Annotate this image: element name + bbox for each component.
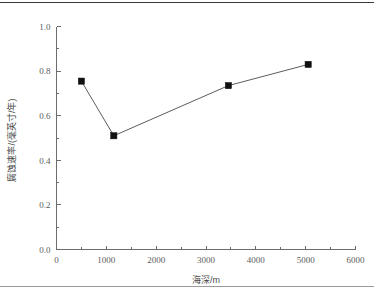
y-tick-label: 1.0 (39, 22, 51, 32)
x-tick-label: 2000 (147, 255, 166, 265)
x-axis-title: 海深/m (192, 274, 220, 285)
y-tick-label: 0.4 (39, 156, 51, 166)
series-line (81, 64, 308, 135)
tick-labels-group: 01000200030004000500060000.00.20.40.60.8… (39, 22, 365, 265)
data-series-group (78, 61, 311, 139)
y-tick-label: 0.8 (39, 66, 51, 76)
data-point-marker (78, 78, 84, 84)
axes-group (57, 27, 356, 250)
x-tick-label: 6000 (347, 255, 366, 265)
y-axis-title: 腐蚀速率/(毫英寸/年) (6, 99, 17, 182)
y-tick-label: 0.0 (39, 245, 51, 255)
x-tick-label: 0 (54, 255, 59, 265)
x-tick-label: 1000 (97, 255, 116, 265)
data-point-marker (111, 133, 117, 139)
y-tick-label: 0.6 (39, 111, 51, 121)
x-tick-label: 3000 (197, 255, 216, 265)
figure-canvas: 01000200030004000500060000.00.20.40.60.8… (0, 0, 374, 289)
x-tick-label: 4000 (247, 255, 266, 265)
data-point-marker (225, 83, 231, 89)
ticks-group (57, 27, 356, 250)
x-tick-label: 5000 (297, 255, 316, 265)
data-point-marker (305, 61, 311, 67)
y-tick-label: 0.2 (39, 200, 50, 210)
line-chart: 01000200030004000500060000.00.20.40.60.8… (0, 0, 374, 289)
